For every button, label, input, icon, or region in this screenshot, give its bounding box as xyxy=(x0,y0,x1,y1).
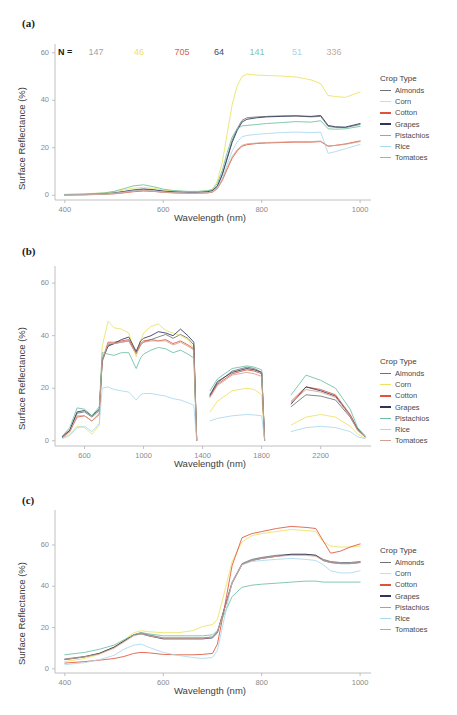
legend-swatch-icon xyxy=(380,90,391,92)
legend-item-label: Grapes xyxy=(395,120,420,129)
legend-item-corn[interactable]: Corn xyxy=(380,380,411,389)
legend-item-label: Almonds xyxy=(395,558,424,567)
legend-item-label: Grapes xyxy=(395,592,420,601)
legend-item-label: Tomatoes xyxy=(395,153,428,162)
legend-swatch-icon xyxy=(380,607,391,609)
series-line-cotton xyxy=(210,370,265,440)
legend-swatch-icon xyxy=(380,101,391,103)
legend-item-tomatoes[interactable]: Tomatoes xyxy=(380,625,428,634)
legend-item-cotton[interactable]: Cotton xyxy=(380,108,417,117)
legend-swatch-icon xyxy=(380,157,391,159)
legend-swatch-icon xyxy=(380,573,391,575)
series-line-corn xyxy=(210,388,265,440)
series-line-corn xyxy=(65,74,360,194)
legend-item-label: Tomatoes xyxy=(395,436,428,445)
legend-item-label: Pistachios xyxy=(395,414,429,423)
legend-swatch-icon xyxy=(380,146,391,148)
legend-item-label: Almonds xyxy=(395,86,424,95)
legend-item-pistachios[interactable]: Pistachios xyxy=(380,131,429,140)
legend-swatch-icon xyxy=(380,440,391,442)
legend-item-label: Cotton xyxy=(395,391,417,400)
legend-item-label: Cotton xyxy=(395,108,417,117)
legend-item-label: Rice xyxy=(395,614,410,623)
legend-swatch-icon xyxy=(380,406,391,408)
series-line-rice xyxy=(65,558,360,664)
legend-swatch-icon xyxy=(380,584,391,586)
legend-item-tomatoes[interactable]: Tomatoes xyxy=(380,153,428,162)
legend-item-almonds[interactable]: Almonds xyxy=(380,369,424,378)
legend-item-label: Corn xyxy=(395,97,411,106)
legend-item-cotton[interactable]: Cotton xyxy=(380,391,417,400)
legend-swatch-icon xyxy=(380,429,391,431)
series-line-rice xyxy=(291,426,365,438)
series-line-cotton xyxy=(65,526,360,663)
legend-item-label: Pistachios xyxy=(395,603,429,612)
series-line-rice xyxy=(210,415,265,441)
legend-item-label: Cotton xyxy=(395,580,417,589)
legend-item-almonds[interactable]: Almonds xyxy=(380,86,424,95)
legend-swatch-icon xyxy=(380,135,391,137)
legend-swatch-icon xyxy=(380,418,391,420)
legend-item-label: Pistachios xyxy=(395,131,429,140)
series-line-corn xyxy=(65,530,360,662)
series-line-almonds xyxy=(65,116,360,195)
legend-item-label: Grapes xyxy=(395,403,420,412)
legend-item-corn[interactable]: Corn xyxy=(380,97,411,106)
legend-item-tomatoes[interactable]: Tomatoes xyxy=(380,436,428,445)
panel-c: (c) Surface Reflectance (%) Wavelength (… xyxy=(0,490,457,715)
series-line-tomatoes xyxy=(65,141,360,195)
series-line-grapes xyxy=(210,369,265,441)
legend-item-label: Rice xyxy=(395,142,410,151)
legend-swatch-icon xyxy=(380,373,391,375)
series-line-almonds xyxy=(65,554,360,659)
series-line-pistachios xyxy=(210,366,265,440)
series-line-grapes xyxy=(65,116,360,195)
panel-a: (a) Surface Reflectance (%) Wavelength (… xyxy=(0,0,457,240)
legend-item-label: Tomatoes xyxy=(395,625,428,634)
legend-item-cotton[interactable]: Cotton xyxy=(380,580,417,589)
series-line-grapes xyxy=(62,329,196,440)
legend-swatch-icon xyxy=(380,384,391,386)
series-line-rice xyxy=(62,387,196,440)
series-line-pistachios xyxy=(65,581,360,655)
legend-item-rice[interactable]: Rice xyxy=(380,142,410,151)
legend-item-label: Almonds xyxy=(395,369,424,378)
legend-item-pistachios[interactable]: Pistachios xyxy=(380,603,429,612)
series-line-almonds xyxy=(62,334,196,440)
series-line-tomatoes xyxy=(65,555,360,659)
panel-b-legend-title: Crop Type xyxy=(380,357,417,366)
legend-swatch-icon xyxy=(380,123,391,125)
legend-swatch-icon xyxy=(380,562,391,564)
legend-item-pistachios[interactable]: Pistachios xyxy=(380,414,429,423)
legend-item-rice[interactable]: Rice xyxy=(380,425,410,434)
legend-swatch-icon xyxy=(380,629,391,631)
legend-item-label: Corn xyxy=(395,380,411,389)
panel-b: (b) Surface Reflectance (%) Wavelength (… xyxy=(0,240,457,490)
panel-c-legend-title: Crop Type xyxy=(380,546,417,555)
legend-item-grapes[interactable]: Grapes xyxy=(380,592,420,601)
series-line-grapes xyxy=(65,554,360,659)
legend-swatch-icon xyxy=(380,618,391,620)
series-line-tomatoes xyxy=(62,341,196,440)
series-line-pistachios xyxy=(65,121,360,195)
legend-swatch-icon xyxy=(380,112,391,114)
legend-item-corn[interactable]: Corn xyxy=(380,569,411,578)
panel-a-legend-title: Crop Type xyxy=(380,74,417,83)
legend-item-label: Rice xyxy=(395,425,410,434)
legend-item-rice[interactable]: Rice xyxy=(380,614,410,623)
series-line-pistachios xyxy=(291,375,365,435)
legend-item-grapes[interactable]: Grapes xyxy=(380,120,420,129)
legend-item-almonds[interactable]: Almonds xyxy=(380,558,424,567)
legend-item-grapes[interactable]: Grapes xyxy=(380,403,420,412)
series-line-cotton xyxy=(65,141,360,195)
legend-item-label: Corn xyxy=(395,569,411,578)
legend-swatch-icon xyxy=(380,595,391,597)
legend-swatch-icon xyxy=(380,395,391,397)
